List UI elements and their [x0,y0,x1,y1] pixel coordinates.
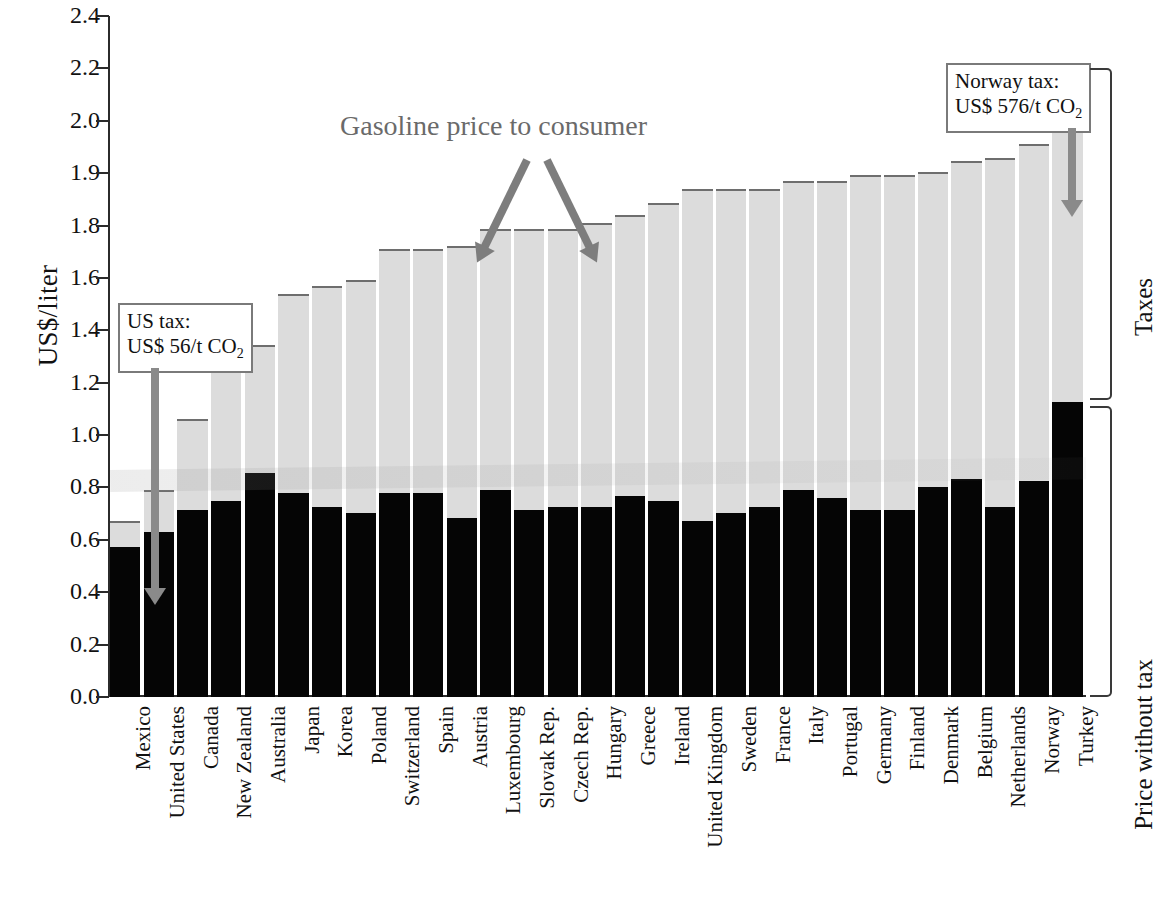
bar-spain [413,249,443,697]
taxes-brace-label: Taxes [1130,278,1158,336]
y-axis-tick-label: 2.4 [42,3,100,27]
x-axis-label: Mexico [133,706,154,770]
bar-segment-price-without-tax [312,507,342,697]
x-axis-label: Italy [806,706,827,744]
x-axis-label: Japan [302,706,323,754]
taxes-brace [1090,68,1112,400]
bar-hungary [581,223,611,697]
bar-segment-price-without-tax [514,510,544,697]
bar-belgium [951,161,981,697]
bar-greece [615,215,645,697]
bar-segment-price-without-tax [548,507,578,697]
y-axis-tick-label: 0.2 [42,632,100,656]
bar-canada [177,419,207,697]
y-axis-tick [96,67,109,69]
bar-segment-price-without-tax [749,507,779,697]
bar-australia [245,345,275,697]
x-axis-label: France [773,706,794,763]
x-axis-label: Greece [638,706,659,765]
y-axis-tick-label: 2.0 [42,108,100,132]
x-axis-label: Slovak Rep. [537,706,558,809]
x-axis-label: Korea [335,706,356,757]
x-axis-label: Denmark [941,706,962,784]
consumer-price-annotation-label: Gasoline price to consumer [340,110,647,142]
y-axis-tick [96,486,109,488]
x-axis-label: United States [167,706,188,819]
x-axis-label: Ireland [672,706,693,765]
x-axis-category-labels: MexicoUnited StatesCanadaNew ZealandAust… [110,700,1086,898]
bar-segment-price-without-tax [783,490,813,697]
bar-segment-price-without-tax [918,487,948,697]
bar-norway [1019,144,1049,697]
bar-segment-price-without-tax [1052,402,1082,697]
x-axis-label: Czech Rep. [571,706,592,803]
y-axis-tick [96,277,109,279]
bar-poland [346,280,376,697]
bar-denmark [918,172,948,697]
us-tax-callout-line1: US tax: [127,309,244,334]
y-axis-tick [96,696,109,698]
bar-portugal [817,181,847,697]
x-axis-label: Norway [1042,706,1063,774]
x-axis-label: Germany [874,706,895,784]
y-axis-tick-label: 0.6 [42,527,100,551]
bar-france [749,189,779,697]
bar-segment-price-without-tax [346,513,376,697]
bar-segment-price-without-tax [379,493,409,697]
y-axis-tick [96,644,109,646]
bar-segment-price-without-tax [278,493,308,697]
bar-segment-price-without-tax [716,513,746,697]
bar-italy [783,181,813,697]
x-axis-label: Finland [907,706,928,770]
bar-finland [884,175,914,697]
bar-segment-price-without-tax [985,507,1015,697]
y-axis-tick-label: 0.4 [42,579,100,603]
price-without-tax-brace [1090,406,1112,697]
bar-segment-price-without-tax [413,493,443,697]
y-axis-tick-label: 0.0 [42,684,100,708]
bar-segment-price-without-tax [884,510,914,697]
y-axis-tick [96,329,109,331]
x-axis-label: United Kingdom [705,706,726,848]
x-axis-label: Switzerland [402,706,423,806]
bar-segment-price-without-tax [648,501,678,697]
bar-segment-price-without-tax [177,510,207,697]
bar-korea [312,286,342,697]
y-axis-tick-label: 0.8 [42,474,100,498]
y-axis-tick-label: 1.0 [42,422,100,446]
y-axis-tick-label: 1.9 [42,160,100,184]
bar-ireland [648,203,678,697]
y-axis-tick [96,172,109,174]
bar-sweden [716,189,746,697]
us-tax-callout-line2: US$ 56/t CO2 [127,334,244,366]
bar-segment-price-without-tax [951,479,981,697]
y-axis-tick [96,434,109,436]
bar-united-kingdom [682,189,712,697]
price-without-tax-brace-label: Price without tax [1130,659,1158,830]
bar-segment-price-without-tax [110,547,140,697]
us-tax-arrow-shaft [151,368,159,590]
x-axis-label: Sweden [739,706,760,773]
norway-tax-callout: Norway tax: US$ 576/t CO2 [946,63,1091,133]
bar-segment-price-without-tax [245,473,275,697]
bar-netherlands [985,158,1015,697]
bar-mexico [110,521,140,697]
y-axis-tick-label: 2.2 [42,55,100,79]
y-axis-title: US$/liter [33,216,64,416]
x-axis-label: Netherlands [1008,706,1029,807]
bar-new-zealand [211,348,241,697]
norway-tax-arrow-shaft [1068,128,1076,202]
x-axis-label: Luxembourg [503,706,524,814]
bar-luxembourg [480,229,510,697]
norway-tax-callout-line1: Norway tax: [955,69,1082,94]
x-axis-label: Poland [369,706,390,764]
x-axis-label: Canada [201,706,222,769]
y-axis-tick [96,225,109,227]
bar-japan [278,294,308,697]
bar-segment-price-without-tax [615,496,645,697]
bar-slovak-rep [514,229,544,697]
bar-segment-price-without-tax [480,490,510,697]
bar-germany [850,175,880,697]
bar-segment-price-without-tax [817,498,847,697]
y-axis-tick [96,120,109,122]
